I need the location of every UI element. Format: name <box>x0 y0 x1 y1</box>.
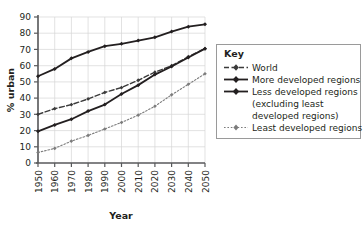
y-axis-tick-labels: 0 10 20 30 40 50 60 70 80 90 <box>20 12 32 168</box>
y-tick-label: 60 <box>20 61 32 71</box>
x-tick-label: 1980 <box>84 170 94 193</box>
y-tick-label: 20 <box>20 126 32 136</box>
data-point-marker <box>70 139 74 143</box>
x-axis-tick-labels: 1950 1960 1970 1980 1990 2000 2010 2020 … <box>34 170 211 193</box>
data-point-marker <box>120 121 124 125</box>
x-axis-title: Year <box>108 210 133 221</box>
x-tick-label: 2030 <box>167 170 177 193</box>
chart-canvas: 0 10 20 30 40 50 60 70 80 90 1950 1960 1… <box>0 0 364 225</box>
data-point-marker <box>53 107 57 111</box>
y-tick-label: 40 <box>20 93 32 103</box>
data-point-marker <box>120 86 124 90</box>
legend-label-world: World <box>252 63 278 73</box>
data-point-marker <box>36 151 40 155</box>
data-point-marker <box>103 127 107 131</box>
y-tick-label: 0 <box>25 158 31 168</box>
y-tick-label: 80 <box>20 28 32 38</box>
legend-label-more-developed: More developed regions <box>252 75 361 85</box>
data-point-marker <box>103 91 107 95</box>
x-tick-label: 2000 <box>117 170 127 193</box>
urbanization-line-chart-figure: 0 10 20 30 40 50 60 70 80 90 1950 1960 1… <box>0 0 364 225</box>
x-tick-label: 2040 <box>184 170 194 193</box>
y-axis-title: % urban <box>5 68 16 112</box>
x-tick-label: 2050 <box>201 170 211 193</box>
x-tick-label: 1960 <box>50 170 60 193</box>
data-point-marker <box>203 22 207 26</box>
x-tick-label: 2020 <box>150 170 160 193</box>
data-point-marker <box>36 112 40 116</box>
x-tick-label: 2010 <box>134 170 144 193</box>
y-tick-label: 70 <box>20 45 32 55</box>
y-tick-label: 50 <box>20 77 32 87</box>
legend-title: Key <box>224 48 245 59</box>
x-tick-label: 1990 <box>100 170 110 193</box>
legend-label-less-developed-line2: (excluding least <box>252 99 324 109</box>
data-point-marker <box>136 39 140 43</box>
data-point-marker <box>70 103 74 107</box>
legend: Key World More developed regions Less de… <box>217 45 363 139</box>
y-tick-label: 30 <box>20 110 32 120</box>
data-point-marker <box>86 97 90 101</box>
y-tick-label: 90 <box>20 12 32 22</box>
legend-label-less-developed-line3: developed regions) <box>252 111 339 121</box>
x-tick-label: 1970 <box>67 170 77 193</box>
data-point-marker <box>186 25 190 29</box>
legend-label-less-developed: Less developed regions <box>252 87 358 97</box>
vertical-gridlines <box>38 17 205 163</box>
data-point-marker <box>120 42 124 46</box>
x-tick-label: 1950 <box>34 170 44 193</box>
legend-label-least-developed: Least developed regions <box>252 123 362 133</box>
data-point-marker <box>86 134 90 138</box>
y-tick-label: 10 <box>20 142 32 152</box>
